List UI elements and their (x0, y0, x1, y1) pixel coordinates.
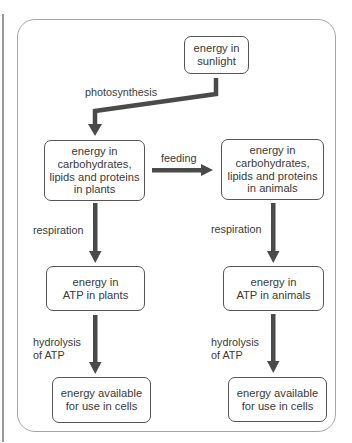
node-energy-in-sunlight: energy in sunlight (184, 36, 249, 74)
hydrolysis-animals-arrow (267, 314, 280, 373)
label-hydrolysis-plants: hydrolysis of ATP (33, 336, 81, 361)
node-energy-available-plants: energy available for use in cells (52, 377, 151, 423)
node-energy-in-animal-biomass: energy in carbohydrates, lipids and prot… (221, 139, 324, 200)
label-feeding: feeding (161, 152, 196, 165)
node-energy-in-atp-animals: energy in ATP in animals (223, 266, 324, 311)
label-photosynthesis: photosynthesis (85, 86, 157, 99)
label-respiration-animals: respiration (211, 223, 261, 236)
respiration-animals-arrow (267, 203, 280, 263)
respiration-plants-arrow (89, 203, 102, 263)
feeding-arrow (152, 164, 213, 176)
label-respiration-plants: respiration (33, 224, 83, 237)
node-energy-available-animals: energy available for use in cells (228, 377, 327, 422)
label-hydrolysis-animals: hydrolysis of ATP (211, 336, 259, 361)
hydrolysis-plants-arrow (89, 315, 102, 374)
node-energy-in-plant-biomass: energy in carbohydrates, lipids and prot… (44, 140, 145, 201)
node-energy-in-atp-plants: energy in ATP in plants (46, 266, 145, 311)
